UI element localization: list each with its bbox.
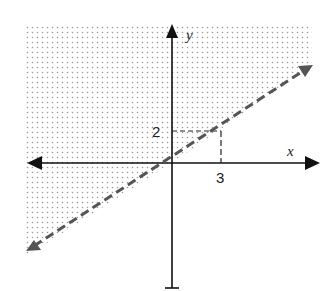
y-axis-label: y [184,27,193,43]
x-axis-right-arrow-icon [305,156,320,170]
x-axis-label: x [286,143,294,159]
x-tick-label: 3 [216,169,224,186]
y-tick-label: 2 [152,123,160,140]
shaded-region [25,25,312,260]
inequality-graph: y x 2 3 [0,0,334,291]
